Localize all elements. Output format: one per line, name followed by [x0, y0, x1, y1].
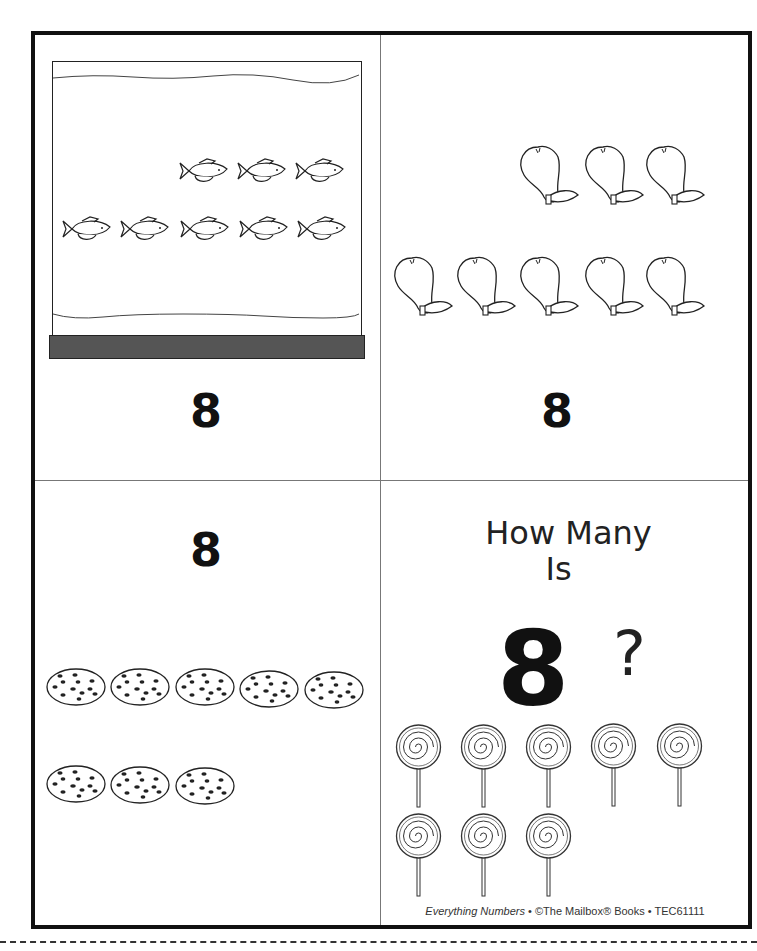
- lollipop-group: [0, 0, 757, 930]
- credit-code: TEC61111: [655, 905, 705, 917]
- credit-line: Everything Numbers • ©The Mailbox® Books…: [380, 905, 750, 917]
- credit-publisher: ©The Mailbox® Books: [535, 905, 645, 917]
- credit-sep-1: •: [525, 905, 535, 917]
- credit-book: Everything Numbers: [425, 905, 525, 917]
- credit-sep-2: •: [645, 905, 655, 917]
- cut-line: [0, 941, 757, 943]
